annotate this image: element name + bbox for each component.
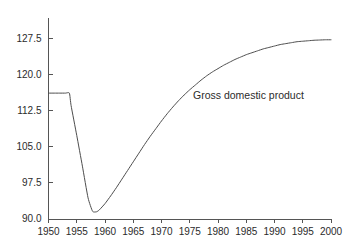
y-tick-label: 120.0	[16, 69, 41, 80]
series-label-gross-domestic-product: Gross domestic product	[193, 89, 304, 101]
y-tick-label: 112.5	[17, 105, 41, 116]
tick-marks	[49, 39, 332, 223]
y-tick-label: 127.5	[16, 33, 41, 44]
x-tick-label: 2000	[311, 226, 343, 237]
series-line-gross-domestic-product	[49, 40, 332, 212]
gdp-line-chart: 90.097.5105.0112.5120.0127.5 19501955196…	[0, 0, 343, 249]
axes-group	[49, 18, 332, 219]
y-tick-label: 90.0	[22, 213, 41, 224]
y-tick-label: 97.5	[22, 177, 41, 188]
y-tick-label: 105.0	[16, 141, 41, 152]
data-series-group	[49, 40, 332, 212]
plot-area	[0, 0, 343, 249]
